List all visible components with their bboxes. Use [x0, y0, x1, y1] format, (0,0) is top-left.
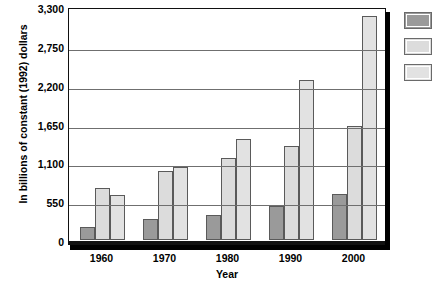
bar [284, 146, 299, 240]
gridline [69, 128, 385, 129]
plot-area [68, 8, 386, 245]
bar [347, 126, 362, 240]
bar [173, 167, 188, 240]
bar [299, 80, 314, 240]
bar [206, 215, 221, 240]
bar [95, 188, 110, 240]
bar [143, 219, 158, 240]
bar-chart: In billions of constant (1992) dollars 0… [0, 0, 438, 286]
gridline [69, 50, 385, 51]
legend-swatch-inner [406, 14, 430, 27]
bar [236, 139, 251, 240]
bar [80, 227, 95, 240]
plot-frame-shadow-bottom [70, 245, 390, 250]
y-axis-tick-labels: 05501,1001,6502,2002,7503,300 [22, 0, 64, 252]
bar [110, 195, 125, 240]
bar [332, 194, 347, 240]
chart-title-cropped [150, 0, 350, 2]
legend-item[interactable] [404, 64, 434, 81]
x-tick-label: 1970 [135, 252, 195, 264]
legend-swatch [404, 38, 432, 55]
y-tick-label: 1,650 [22, 121, 64, 131]
legend-swatch-inner [406, 66, 430, 79]
y-tick-label: 1,100 [22, 159, 64, 169]
y-tick-label: 2,750 [22, 43, 64, 53]
legend-swatch [404, 64, 432, 81]
y-tick-label: 550 [22, 198, 64, 208]
x-axis-tick-labels: 19601970198019902000 [68, 252, 386, 268]
legend-swatch-inner [406, 40, 430, 53]
x-axis-title: Year [68, 268, 386, 280]
x-tick-label: 2000 [324, 252, 384, 264]
y-tick-label: 2,200 [22, 82, 64, 92]
legend-swatch [404, 12, 432, 29]
bar-series-container [69, 9, 385, 244]
gridline [69, 89, 385, 90]
legend-item[interactable] [404, 12, 434, 29]
legend-item[interactable] [404, 38, 434, 55]
gridline [69, 205, 385, 206]
x-tick-label: 1990 [261, 252, 321, 264]
bar [221, 158, 236, 240]
bar [269, 206, 284, 240]
legend [404, 12, 434, 90]
x-tick-label: 1960 [72, 252, 132, 264]
x-tick-label: 1980 [198, 252, 258, 264]
gridline [69, 166, 385, 167]
plot-frame-shadow-right [385, 12, 390, 249]
y-tick-label: 0 [22, 237, 64, 247]
y-tick-label: 3,300 [22, 4, 64, 14]
